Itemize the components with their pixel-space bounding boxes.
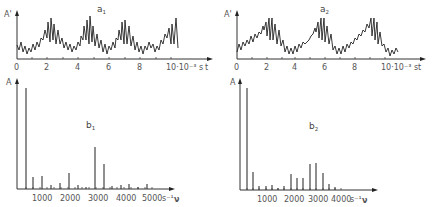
b1-tick-4000: 4000	[116, 194, 136, 203]
a2-x-label: t	[418, 63, 421, 72]
b1-tick-5000: 5000	[142, 194, 162, 203]
b1-tick-1000: 1000	[32, 194, 52, 203]
a2-title: a2	[320, 4, 329, 15]
a2-tick-8: 8	[352, 63, 357, 72]
a1-title: a1	[97, 4, 106, 15]
a1-tick-2: 2	[44, 63, 49, 72]
b1-tick-3000: 3000	[88, 194, 108, 203]
a2-unit-label: 10·10⁻³ s	[381, 63, 418, 72]
a2-y-arrow-icon	[235, 10, 239, 16]
a2-tick-0: 0	[234, 63, 239, 72]
b1-bars	[26, 88, 147, 189]
b2-tick-2000: 2000	[284, 195, 304, 204]
a1-tick-0: 0	[14, 63, 19, 72]
b2-title: b2	[309, 121, 318, 132]
a2-tick-6: 6	[322, 63, 327, 72]
b1-tick-2000: 2000	[60, 194, 80, 203]
a1-tick-8: 8	[137, 63, 142, 72]
b1-y-arrow-icon	[15, 78, 19, 84]
b2-tick-1000: 1000	[257, 195, 277, 204]
a1-x-arrow-icon	[207, 57, 213, 61]
b2-y-label: A	[230, 78, 236, 87]
b2-tick-3000: 3000	[308, 195, 328, 204]
chart-a2: a2 A' 0 2 4 6 8 10·10⁻³ s t	[224, 4, 426, 72]
a1-x-label: t	[205, 63, 208, 72]
b1-unit-label: s⁻¹	[162, 194, 174, 203]
chart-b1: b1 A 1000 2000 3000 4000 5000 s⁻¹ ν	[6, 78, 180, 204]
b1-x-arrow-icon	[169, 187, 175, 191]
a2-tick-4: 4	[292, 63, 297, 72]
b2-tick-4000: 4000	[331, 195, 351, 204]
b2-x-label: ν	[362, 196, 368, 205]
b2-unit-label: s⁻¹	[350, 195, 362, 204]
b1-x-label: ν	[174, 195, 180, 204]
a1-unit-label: 10·10⁻³ s	[166, 63, 203, 72]
a1-y-label: A'	[4, 10, 12, 19]
figure: a1 A' 0 2 4 6 8 10·10⁻³ s t a2 A' 0 2 4 …	[0, 0, 432, 207]
chart-a1: a1 A' 0 2 4 6 8 10·10⁻³ s t	[4, 4, 213, 72]
chart-b2: b2 A 1000 2000 3000 4000 s⁻¹ ν	[230, 78, 378, 205]
a1-tick-4: 4	[75, 63, 80, 72]
a2-x-arrow-icon	[420, 57, 426, 61]
a1-y-arrow-icon	[15, 10, 19, 16]
b2-x-arrow-icon	[372, 188, 378, 192]
a2-tick-2: 2	[264, 63, 269, 72]
b2-bars	[247, 88, 335, 190]
a2-waveform	[237, 18, 398, 56]
b2-y-arrow-icon	[238, 78, 242, 84]
a2-y-label: A'	[224, 10, 232, 19]
a1-tick-6: 6	[106, 63, 111, 72]
a1-waveform	[17, 16, 178, 54]
b1-title: b1	[86, 120, 95, 131]
b1-y-label: A	[6, 78, 12, 87]
